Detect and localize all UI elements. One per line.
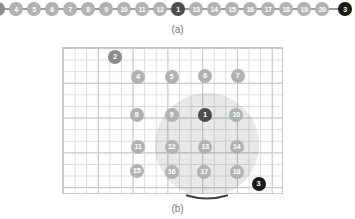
- node-20: 20: [315, 2, 329, 16]
- node-5: 5: [165, 70, 179, 84]
- panel-b-caption: (b): [0, 203, 355, 214]
- node-15: 15: [130, 164, 144, 178]
- node-1: 1: [171, 2, 185, 16]
- node-12: 12: [153, 2, 167, 16]
- grid-paper: [62, 47, 283, 194]
- node-8: 8: [81, 2, 95, 16]
- node-13: 13: [198, 140, 212, 154]
- node-14: 14: [207, 2, 221, 16]
- node-16: 16: [165, 165, 179, 179]
- node-13: 13: [189, 2, 203, 16]
- node-10: 10: [229, 108, 243, 122]
- range-circle-bottom-arc: [179, 192, 235, 204]
- node-2: 2: [0, 2, 5, 16]
- node-6: 6: [198, 69, 212, 83]
- node-10: 10: [117, 2, 131, 16]
- node-15: 15: [225, 2, 239, 16]
- node-6: 6: [45, 2, 59, 16]
- node-7: 7: [63, 2, 77, 16]
- node-9: 9: [99, 2, 113, 16]
- panel-b: 245678911011121314151617183 (b): [0, 0, 355, 219]
- node-8: 8: [130, 108, 144, 122]
- figure: 2456789101112113141516171819203 (a) 2456…: [0, 0, 355, 219]
- node-2: 2: [108, 50, 122, 64]
- chain-line: [0, 8, 346, 10]
- panel-a-caption: (a): [0, 24, 355, 35]
- node-7: 7: [231, 69, 245, 83]
- node-5: 5: [27, 2, 41, 16]
- node-4: 4: [9, 2, 23, 16]
- node-16: 16: [243, 2, 257, 16]
- panel-a: 2456789101112113141516171819203 (a): [0, 0, 355, 219]
- node-9: 9: [165, 108, 179, 122]
- node-18: 18: [230, 165, 244, 179]
- node-18: 18: [279, 2, 293, 16]
- node-12: 12: [165, 140, 179, 154]
- node-19: 19: [297, 2, 311, 16]
- node-14: 14: [230, 140, 244, 154]
- node-17: 17: [261, 2, 275, 16]
- node-11: 11: [135, 2, 149, 16]
- node-3: 3: [338, 2, 352, 16]
- node-1: 1: [198, 108, 212, 122]
- node-11: 11: [131, 140, 145, 154]
- node-4: 4: [131, 70, 145, 84]
- node-3: 3: [252, 177, 266, 191]
- transmission-range-circle: [155, 93, 259, 194]
- node-17: 17: [197, 165, 211, 179]
